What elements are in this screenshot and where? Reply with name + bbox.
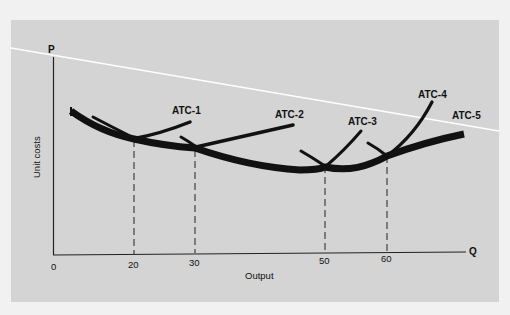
y-axis-end-label: P — [48, 44, 55, 55]
origin-label: 0 — [51, 261, 56, 272]
label-atc-4: ATC-4 — [418, 89, 447, 100]
label-atc-5: ATC-5 — [452, 110, 481, 121]
x-axis-title: Output — [245, 270, 274, 281]
label-atc-1: ATC-1 — [172, 105, 201, 116]
tick-label-30: 30 — [189, 257, 200, 268]
tick-label-50: 50 — [319, 255, 330, 266]
label-atc-2: ATC-2 — [275, 109, 304, 120]
tick-label-20: 20 — [128, 259, 139, 270]
y-axis-title: Unit costs — [31, 136, 42, 178]
tick-label-60: 60 — [381, 253, 392, 264]
chart-svg: ATC-1 ATC-2 ATC-3 ATC-4 ATC-5 P Q 0 20 3… — [0, 0, 510, 315]
label-atc-3: ATC-3 — [348, 116, 377, 127]
x-axis-end-label: Q — [469, 246, 477, 257]
chart-figure: ATC-1 ATC-2 ATC-3 ATC-4 ATC-5 P Q 0 20 3… — [0, 0, 510, 315]
